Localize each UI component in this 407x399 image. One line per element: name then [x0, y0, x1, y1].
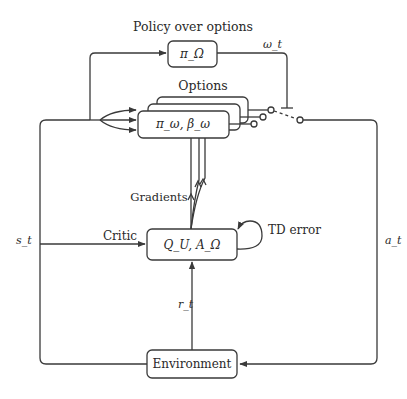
- switch-output-terminal: [297, 117, 303, 123]
- options-label: π_ω, β_ω: [155, 117, 210, 131]
- policy-over-options-label: π_Ω: [179, 47, 204, 61]
- switch-terminal-3: [251, 121, 257, 127]
- state-label: s_t: [16, 234, 32, 247]
- gradient-line-2: [191, 138, 199, 229]
- policy-over-options-caption: Policy over options: [133, 19, 253, 34]
- critic-node-label: Q_U, A_Ω: [163, 238, 220, 252]
- state-to-option-3: [100, 120, 136, 130]
- gradients-label: Gradients: [130, 190, 187, 204]
- option-critic-diagram: Policy over options π_Ω ω_t Options π_ω,…: [0, 0, 407, 399]
- reward-label: r_t: [178, 298, 194, 311]
- td-error-loop: [237, 221, 262, 249]
- options-caption: Options: [178, 78, 227, 93]
- switch-terminal-1: [268, 107, 274, 113]
- switch-arm: [274, 111, 297, 119]
- switch-terminal-2: [260, 114, 266, 120]
- action-label: a_t: [385, 234, 402, 247]
- td-error-label: TD error: [268, 223, 321, 237]
- state-to-option-1: [100, 110, 136, 120]
- critic-label: Critic: [103, 229, 137, 243]
- omega-t-label: ω_t: [263, 38, 282, 51]
- environment-label: Environment: [153, 357, 232, 371]
